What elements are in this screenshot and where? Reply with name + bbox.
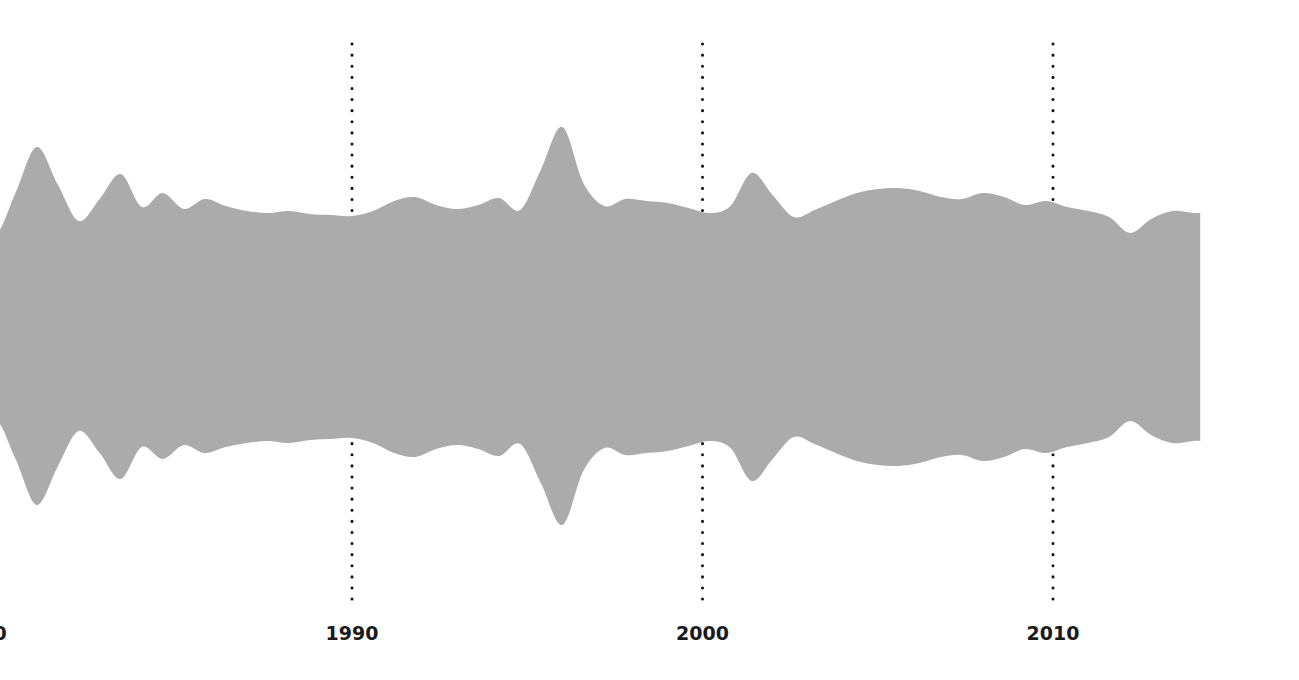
x-tick-label-80: 80 (0, 622, 7, 644)
x-tick-label-2000: 2000 (676, 622, 729, 644)
chart-container: 80199020002010 (0, 0, 1299, 680)
x-tick-label-1990: 1990 (326, 622, 379, 644)
stream-area-chart: 80199020002010 (0, 0, 1299, 680)
x-tick-label-2010: 2010 (1027, 622, 1080, 644)
